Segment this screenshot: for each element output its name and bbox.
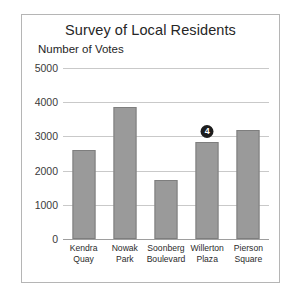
x-axis-line bbox=[63, 239, 269, 240]
bar-slot: SoonbergBoulevard bbox=[145, 68, 186, 239]
y-tick-label: 5000 bbox=[35, 62, 58, 74]
bar[interactable] bbox=[237, 130, 260, 239]
bar[interactable] bbox=[196, 142, 219, 239]
bar-annotation-badge: 4 bbox=[201, 125, 214, 138]
y-axis-title: Number of Votes bbox=[38, 43, 124, 55]
y-tick-label: 2000 bbox=[35, 165, 58, 177]
x-category-label: PiersonSquare bbox=[227, 243, 269, 264]
bar-series: KendraQuayNowakParkSoonbergBoulevard4Wil… bbox=[63, 68, 269, 239]
bar-slot: NowakPark bbox=[104, 68, 145, 239]
x-category-label-line2: Plaza bbox=[186, 254, 228, 265]
chart-frame: Survey of Local Residents Number of Vote… bbox=[21, 14, 280, 283]
y-tick-label: 0 bbox=[52, 233, 58, 245]
x-category-label-line2: Park bbox=[104, 254, 146, 265]
y-tick-label: 4000 bbox=[35, 96, 58, 108]
bar[interactable] bbox=[154, 180, 177, 239]
plot-area: 010002000300040005000 KendraQuayNowakPar… bbox=[63, 68, 269, 239]
chart-title: Survey of Local Residents bbox=[22, 22, 279, 38]
x-category-label-line2: Boulevard bbox=[145, 254, 187, 265]
bar[interactable] bbox=[72, 150, 95, 239]
x-category-label: NowakPark bbox=[104, 243, 146, 264]
x-category-label-line2: Square bbox=[227, 254, 269, 265]
bar-slot: 4WillertonPlaza bbox=[187, 68, 228, 239]
x-category-label: KendraQuay bbox=[63, 243, 105, 264]
bar-slot: KendraQuay bbox=[63, 68, 104, 239]
y-tick-label: 1000 bbox=[35, 199, 58, 211]
x-category-label: SoonbergBoulevard bbox=[145, 243, 187, 264]
x-category-label: WillertonPlaza bbox=[186, 243, 228, 264]
bar[interactable] bbox=[113, 107, 136, 239]
x-category-label-line2: Quay bbox=[63, 254, 105, 265]
chart-page: Survey of Local Residents Number of Vote… bbox=[0, 0, 299, 299]
bar-slot: PiersonSquare bbox=[228, 68, 269, 239]
y-tick-label: 3000 bbox=[35, 130, 58, 142]
